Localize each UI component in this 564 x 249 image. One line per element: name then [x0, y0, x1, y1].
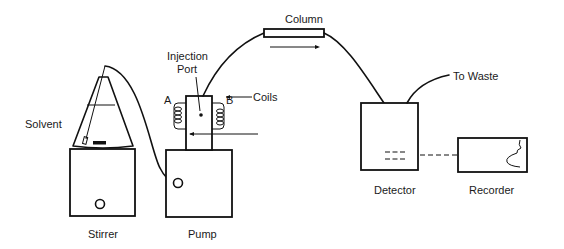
injection-port-label-line2: Port: [177, 63, 197, 75]
flow-arrowhead-icon: [315, 45, 320, 49]
column-tube: [264, 29, 324, 37]
solvent-label: Solvent: [25, 118, 62, 130]
recorder-label: Recorder: [469, 184, 515, 196]
pump-label: Pump: [188, 228, 217, 240]
coil-b: [212, 103, 224, 129]
line-to-detector: [324, 33, 384, 103]
injection-port-hole[interactable]: [199, 113, 203, 117]
coil-a: [174, 103, 186, 129]
inlet-filter: [83, 137, 88, 145]
detector-label: Detector: [374, 184, 416, 196]
column-label: Column: [285, 13, 323, 25]
waste-label: To Waste: [453, 70, 498, 82]
stirrer-label: Stirrer: [88, 228, 118, 240]
stir-bar: [93, 141, 106, 145]
line-to-column: [203, 33, 264, 96]
pump-box: [166, 150, 232, 217]
waste-line: [407, 75, 449, 103]
coil-a-label: A: [164, 94, 172, 106]
hplc-diagram: Solvent Stirrer Pump Injection Port A B …: [0, 0, 564, 249]
injection-port-label-line1: Injection: [167, 50, 208, 62]
stirrer-box: [70, 149, 135, 216]
detector-box: [361, 103, 418, 170]
coils-label: Coils: [253, 91, 278, 103]
